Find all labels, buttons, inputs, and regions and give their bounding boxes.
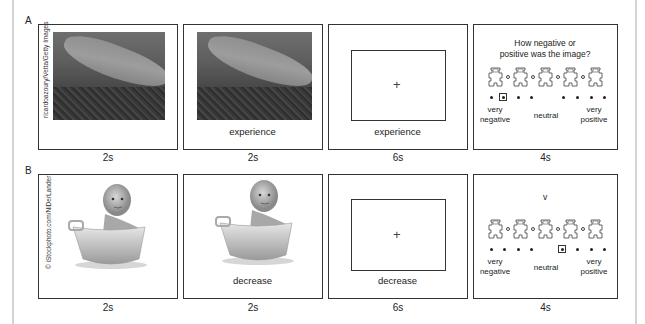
- scale-separator: [581, 227, 585, 231]
- duration-label: 2s: [38, 302, 178, 313]
- scale-separator: [556, 75, 560, 79]
- rating-point[interactable]: [576, 96, 579, 99]
- sam-mannequin-icon: [537, 219, 554, 239]
- duration-label: 4s: [473, 302, 618, 313]
- rating-point[interactable]: [590, 248, 593, 251]
- label-neutral: neutral: [526, 263, 566, 273]
- rating-point[interactable]: [502, 96, 505, 99]
- frame-b2: decrease: [183, 174, 323, 299]
- rating-point[interactable]: [590, 96, 593, 99]
- rating-point[interactable]: [530, 248, 533, 251]
- duration-label: 6s: [328, 302, 468, 313]
- cue-word: experience: [184, 126, 321, 137]
- frame-b1: © iStockphoto.com/NiDerLander: [38, 174, 178, 299]
- frame-b3: + decrease: [328, 174, 468, 299]
- label-very-negative: very negative: [478, 105, 512, 125]
- rating-point[interactable]: [490, 248, 493, 251]
- frame-a4: How negative or positive was the image? …: [473, 24, 618, 150]
- panel-label-a: A: [25, 15, 32, 26]
- fixation-cross: +: [393, 78, 401, 91]
- photo-credit: ricardoazoury/Vetta/Getty Images: [42, 22, 49, 118]
- shark-photo: [197, 32, 312, 120]
- duration-label: 2s: [38, 152, 178, 163]
- duration-label: 2s: [183, 302, 323, 313]
- baby-in-tub-photo: [208, 177, 308, 267]
- sam-mannequin-icon: [537, 67, 554, 87]
- reef-shape: [197, 87, 312, 120]
- sam-mannequin-icon: [487, 67, 504, 87]
- duration-label: 4s: [473, 152, 618, 163]
- sam-mannequin-icon: [562, 219, 579, 239]
- shark-photo: [53, 32, 165, 120]
- label-very-negative: very negative: [478, 257, 512, 277]
- photo-credit: © iStockphoto.com/NiDerLander: [45, 176, 52, 269]
- rating-point[interactable]: [503, 248, 506, 251]
- sam-mannequin-icon: [562, 67, 579, 87]
- label-very-positive: very positive: [577, 257, 611, 277]
- scale-separator: [556, 227, 560, 231]
- sam-mannequin-icon: [587, 219, 604, 239]
- rating-point[interactable]: [603, 248, 606, 251]
- sam-mannequin-icon: [587, 67, 604, 87]
- duration-label: 2s: [183, 152, 323, 163]
- rating-question: How negative or positive was the image?: [474, 38, 616, 60]
- scale-separator: [581, 75, 585, 79]
- fixation-screen: +: [351, 199, 446, 271]
- rating-point[interactable]: [517, 96, 520, 99]
- cue-word: experience: [329, 126, 466, 137]
- rating-point[interactable]: [603, 96, 606, 99]
- cue-word: decrease: [329, 275, 466, 286]
- left-divider: [12, 0, 14, 324]
- rating-point[interactable]: [490, 96, 493, 99]
- baby-in-tub-photo: [61, 181, 161, 271]
- rating-points: [487, 93, 607, 102]
- rating-point[interactable]: [561, 248, 564, 251]
- sam-mannequin-icon: [512, 67, 529, 87]
- reef-shape: [53, 87, 165, 120]
- panel-label-b: B: [25, 165, 32, 176]
- cue-word: decrease: [184, 275, 321, 286]
- label-neutral: neutral: [526, 111, 566, 121]
- rating-points: [487, 245, 607, 254]
- rating-point[interactable]: [530, 96, 533, 99]
- scale-separator: [506, 75, 510, 79]
- frame-a2: experience: [183, 24, 323, 150]
- frame-a3: + experience: [328, 24, 468, 150]
- fixation-cross: +: [393, 228, 401, 241]
- sam-mannequin-icon: [512, 219, 529, 239]
- rating-point[interactable]: [517, 248, 520, 251]
- duration-label: 6s: [328, 152, 468, 163]
- right-divider: [635, 0, 637, 324]
- sam-mannequin-row: [487, 219, 604, 239]
- frame-a1: ricardoazoury/Vetta/Getty Images: [38, 24, 178, 150]
- fixation-screen: +: [351, 50, 446, 121]
- rating-question: v: [474, 192, 616, 203]
- rating-point[interactable]: [562, 96, 565, 99]
- rating-point[interactable]: [576, 248, 579, 251]
- sam-mannequin-row: [487, 67, 604, 87]
- scale-separator: [531, 75, 535, 79]
- scale-separator: [531, 227, 535, 231]
- scale-separator: [506, 227, 510, 231]
- frame-b4: v very negative neutral very positive: [473, 174, 618, 299]
- sam-mannequin-icon: [487, 219, 504, 239]
- label-very-positive: very positive: [577, 105, 611, 125]
